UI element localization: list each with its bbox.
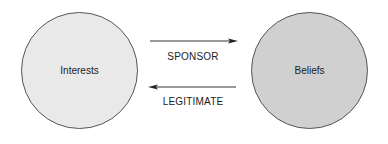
sponsor-arrow [150,39,238,44]
edge-label-sponsor: SPONSOR [143,51,243,62]
edges-layer [0,0,388,144]
diagram: Interests Beliefs SPONSOR LEGITIMATE [0,0,388,144]
edge-label-legitimate: LEGITIMATE [143,96,243,107]
legitimate-arrow [148,85,236,90]
